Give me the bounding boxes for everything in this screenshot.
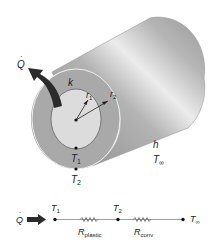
resistor-conv-label: Rconv [134, 227, 153, 238]
outer-temp-label: T2 [71, 174, 81, 186]
convection-coeff-label: h [153, 139, 159, 150]
svg-text:·: · [19, 209, 21, 216]
node-t2 [116, 218, 119, 221]
network-heat-rate-label: Q [16, 215, 23, 225]
t2-point [74, 167, 77, 170]
node-t2-label: T2 [113, 203, 123, 214]
resistor-plastic-label: Rplastic [78, 227, 102, 238]
resistor-plastic-icon [80, 218, 98, 222]
node-t1-label: T1 [51, 203, 61, 214]
t1-point [74, 146, 77, 149]
node-tinf-label: T∞ [190, 214, 200, 225]
center-point [74, 118, 77, 121]
ambient-temp-label: T∞ [153, 154, 164, 166]
node-t1 [53, 218, 56, 221]
heat-rate-dot: · [20, 52, 23, 61]
insulated-cylinder-diagram: Q · k r1 r2 h T∞ T1 T2 Q · T1 T2 T∞ Rpla… [0, 0, 215, 247]
node-tinf [181, 218, 184, 221]
thermal-resistance-network: Q · T1 T2 T∞ Rplastic Rconv [16, 203, 200, 238]
heat-input-arrow-icon [27, 214, 46, 225]
resistor-conv-icon [133, 218, 151, 222]
